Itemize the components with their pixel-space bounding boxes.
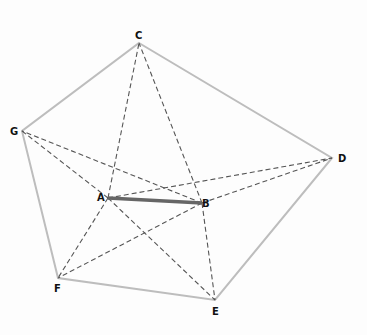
label-a: A [97,192,105,203]
geometry-diagram: A B C D E F G [0,0,367,335]
label-b: B [202,198,210,209]
label-f: F [54,283,61,294]
label-g: G [10,126,18,137]
label-c: C [135,30,142,41]
dashed-lines [22,43,332,300]
label-e: E [212,306,219,317]
label-d: D [338,153,346,164]
segment-ab [108,198,202,203]
